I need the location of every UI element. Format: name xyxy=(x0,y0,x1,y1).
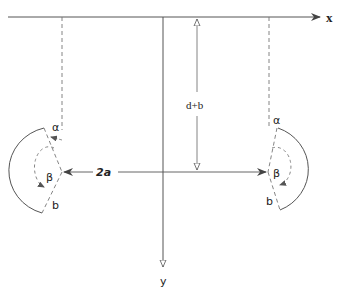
left-top-edge xyxy=(44,128,62,172)
y-axis-label: y xyxy=(160,275,167,288)
left-outer-arc xyxy=(9,128,44,213)
right-top-edge xyxy=(268,128,277,172)
left-body: α β b xyxy=(9,121,62,213)
dimension-d-plus-b-label: d+b xyxy=(186,99,204,111)
left-beta-label: β xyxy=(46,171,53,184)
dimension-2a-label: 2a xyxy=(96,166,111,179)
right-body: α β b xyxy=(266,114,308,210)
right-outer-arc xyxy=(278,128,308,210)
x-axis-label: x xyxy=(326,10,333,25)
right-alpha-label: α xyxy=(273,114,280,127)
right-beta-label: β xyxy=(273,167,280,180)
right-b-label: b xyxy=(266,195,273,208)
left-alpha-label: α xyxy=(52,121,59,134)
left-b-label: b xyxy=(52,199,59,212)
left-alpha-tick xyxy=(51,137,62,140)
diagram-canvas: x y d+b 2a α β b α β b xyxy=(0,0,343,302)
